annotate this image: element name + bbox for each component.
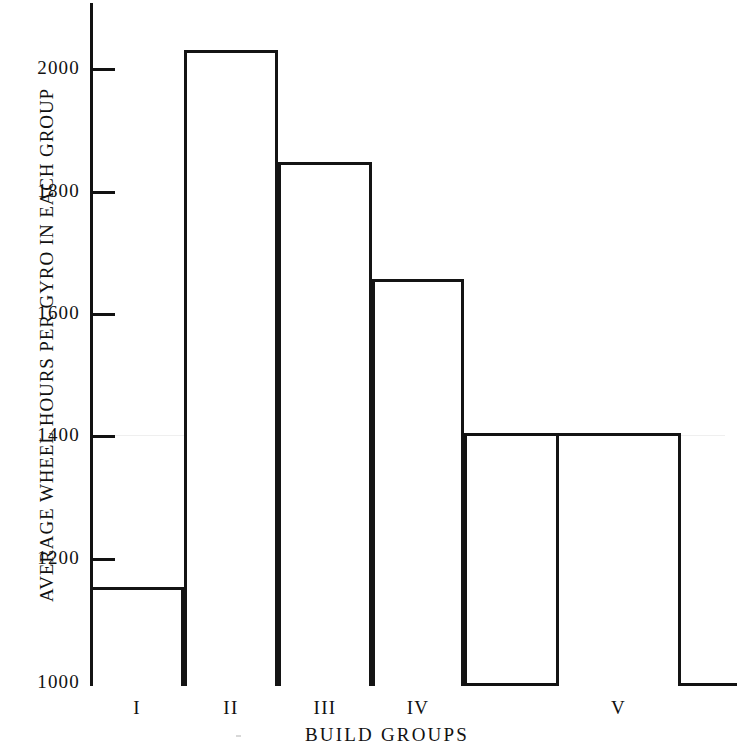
bar-divider-line xyxy=(464,433,467,686)
y-tick-label: 1400 xyxy=(0,424,80,446)
scan-speck xyxy=(236,735,241,737)
y-tick-label: 1000 xyxy=(0,671,80,693)
y-tick-label: 1200 xyxy=(0,547,80,569)
y-tick-mark xyxy=(93,68,115,71)
x-tick-label-III: III xyxy=(278,697,372,719)
bar-chart-figure: AVERAGE WHEEL HOURS PER GYRO IN EACH GRO… xyxy=(0,0,740,752)
x-tick-label-IV: IV xyxy=(372,697,464,719)
y-tick-mark xyxy=(93,191,115,194)
x-tick-label-I: I xyxy=(90,697,184,719)
bar-group-III[interactable] xyxy=(278,162,372,686)
x-tick-label-II: II xyxy=(184,697,278,719)
y-tick-label: 1600 xyxy=(0,302,80,324)
y-tick-mark xyxy=(93,313,115,316)
x-tick-label-V: V xyxy=(556,697,681,719)
bar-V-top-left-segment xyxy=(464,433,559,436)
y-tick-mark xyxy=(93,435,115,438)
y-tick-mark xyxy=(93,558,115,561)
x-axis-title-wrap: BUILD GROUPS xyxy=(0,724,740,746)
y-tick-label: 2000 xyxy=(0,57,80,79)
bar-group-II[interactable] xyxy=(184,50,278,686)
bar-group-I[interactable] xyxy=(90,587,184,686)
bar-group-V[interactable] xyxy=(556,433,681,686)
plot-area: 2000 1800 1600 1400 1200 1000 xyxy=(0,0,740,752)
bar-group-IV[interactable] xyxy=(372,279,464,686)
y-tick-label: 1800 xyxy=(0,180,80,202)
y-axis-line xyxy=(90,3,93,686)
x-axis-title: BUILD GROUPS xyxy=(271,724,469,745)
